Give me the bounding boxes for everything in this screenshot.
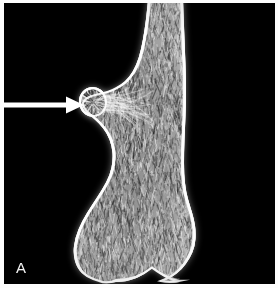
- radiograph-image: A: [4, 3, 275, 284]
- panel-label: A: [16, 260, 27, 275]
- bone-radiograph-canvas: [4, 3, 275, 284]
- figure-panel-a: A: [0, 0, 278, 288]
